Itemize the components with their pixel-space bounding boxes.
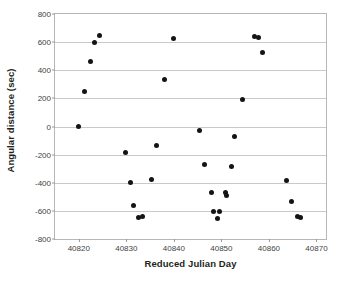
data-point (224, 193, 229, 198)
data-point (217, 209, 222, 214)
y-tick-label: -600 (35, 206, 51, 215)
y-axis-title: Angular distance (sec) (0, 0, 20, 240)
y-tick-label: -800 (35, 235, 51, 244)
data-point (256, 35, 261, 40)
y-gridline (55, 70, 326, 71)
data-point (154, 143, 159, 148)
y-tick-mark (52, 182, 55, 183)
y-tick-mark (52, 210, 55, 211)
x-tick-mark (79, 239, 80, 242)
x-tick-mark (221, 239, 222, 242)
y-tick-label: -200 (35, 150, 51, 159)
x-tick-label: 40850 (210, 244, 232, 253)
x-tick-label: 40840 (163, 244, 185, 253)
y-gridline (55, 211, 326, 212)
y-gridline (55, 127, 326, 128)
y-tick-label: 400 (38, 66, 51, 75)
x-tick-label: 40870 (305, 244, 327, 253)
data-point (97, 33, 102, 38)
y-tick-label: -400 (35, 178, 51, 187)
data-point (209, 190, 214, 195)
data-point (202, 162, 207, 167)
x-tick-mark (126, 239, 127, 242)
data-point (76, 124, 81, 129)
x-tick-mark (316, 239, 317, 242)
data-point (260, 50, 265, 55)
scatter-plot-figure: Angular distance (sec) 8006004002000-200… (0, 0, 345, 281)
data-point (298, 215, 303, 220)
y-axis-title-text: Angular distance (sec) (5, 68, 16, 172)
y-tick-mark (52, 98, 55, 99)
y-tick-mark (52, 70, 55, 71)
data-point (82, 89, 87, 94)
y-tick-label: 0 (47, 122, 51, 131)
data-point (131, 203, 136, 208)
x-tick-label: 40860 (258, 244, 280, 253)
data-point (215, 216, 220, 221)
y-tick-label: 600 (38, 38, 51, 47)
x-tick-mark (269, 239, 270, 242)
x-tick-label: 40830 (115, 244, 137, 253)
data-point (140, 214, 145, 219)
data-point (149, 177, 154, 182)
data-point (123, 150, 128, 155)
data-point (211, 209, 216, 214)
data-point (171, 36, 176, 41)
y-gridline (55, 155, 326, 156)
y-tick-mark (52, 239, 55, 240)
y-gridline (55, 98, 326, 99)
y-tick-mark (52, 126, 55, 127)
data-point (128, 180, 133, 185)
data-point (92, 40, 97, 45)
data-point (88, 59, 93, 64)
data-point (162, 77, 167, 82)
y-tick-label: 800 (38, 10, 51, 19)
data-point (197, 128, 202, 133)
y-tick-mark (52, 154, 55, 155)
y-tick-mark (52, 42, 55, 43)
data-point (232, 134, 237, 139)
y-tick-mark (52, 14, 55, 15)
y-tick-label: 200 (38, 94, 51, 103)
data-point (229, 164, 234, 169)
x-tick-mark (174, 239, 175, 242)
x-tick-label: 40820 (68, 244, 90, 253)
x-axis-title: Reduced Julian Day (54, 258, 327, 269)
data-point (240, 97, 245, 102)
plot-area: 8006004002000-200-400-600-80040820408304… (54, 13, 327, 240)
data-point (289, 199, 294, 204)
